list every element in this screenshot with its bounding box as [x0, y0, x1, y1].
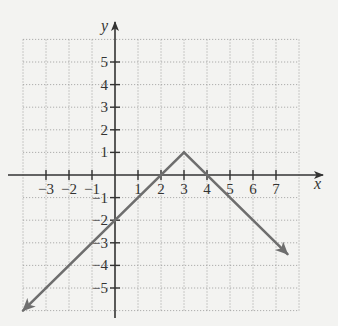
y-tick-label: −1: [92, 190, 108, 206]
x-tick-label: −2: [61, 181, 77, 197]
x-tick-label: 6: [249, 181, 257, 197]
right-ray: [184, 152, 288, 254]
x-tick-label: 2: [157, 181, 165, 197]
y-tick-label: −2: [92, 212, 108, 228]
x-axis-label: x: [313, 175, 321, 192]
x-tick-label: 7: [272, 181, 280, 197]
x-tick-label: 3: [180, 181, 188, 197]
y-axis-label: y: [99, 17, 109, 35]
coordinate-plane-chart: xy −3−2−1123456754321−1−2−3−4−5: [0, 0, 338, 326]
x-tick-label: 4: [203, 181, 211, 197]
y-tick-label: 1: [101, 144, 109, 160]
y-tick-label: 5: [101, 54, 109, 70]
y-tick-label: −5: [92, 280, 108, 296]
y-tick-label: 3: [101, 99, 109, 115]
y-tick-label: −3: [92, 235, 108, 251]
data-series: [23, 152, 288, 310]
x-tick-label: −3: [38, 181, 54, 197]
y-tick-label: 2: [101, 122, 109, 138]
y-tick-label: 4: [101, 77, 109, 93]
y-tick-label: −4: [92, 257, 108, 273]
plot-area: xy −3−2−1123456754321−1−2−3−4−5: [0, 0, 338, 326]
